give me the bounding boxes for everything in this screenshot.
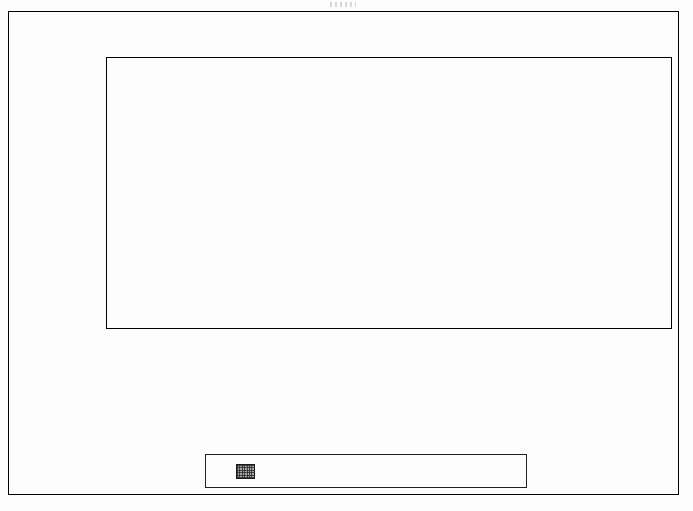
x-axis-labels [106,342,672,462]
figure-frame [8,11,679,495]
figure-page [0,0,693,511]
legend [205,454,527,488]
plot-inner [107,58,671,328]
y-axis [69,57,106,329]
legend-swatch [236,464,255,479]
scan-artifact [330,2,356,7]
x-axis-ticks [106,329,672,340]
plot-area [106,57,672,329]
y-axis-title [17,57,51,329]
